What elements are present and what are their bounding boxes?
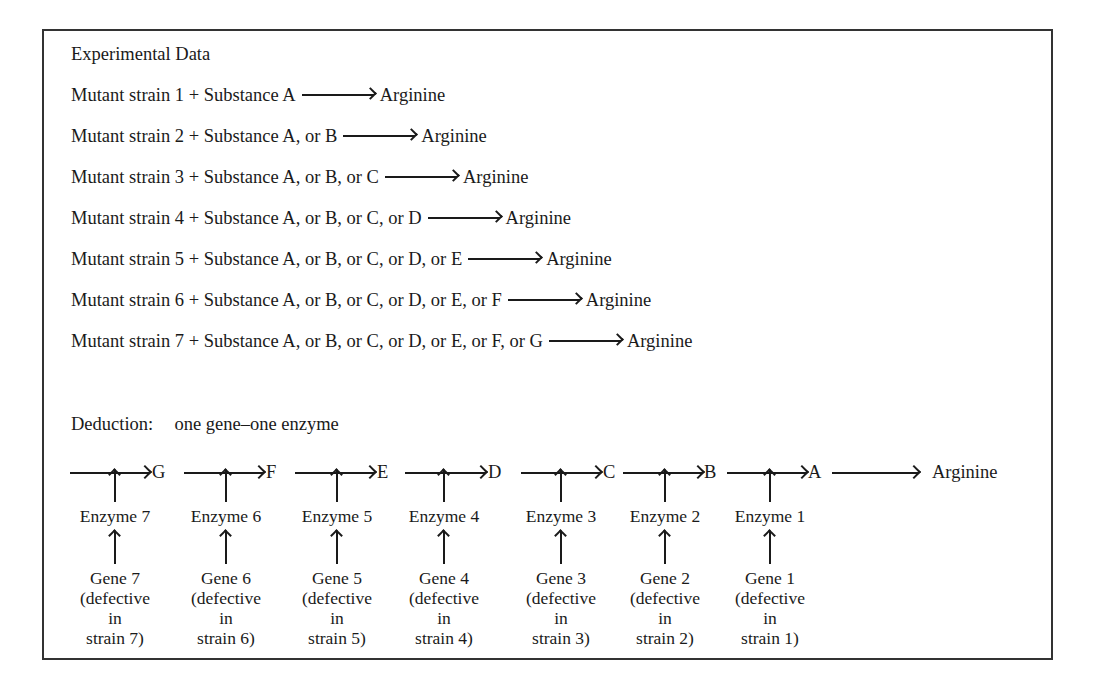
right-arrow-icon: [343, 135, 415, 137]
gene-name: Gene 5: [282, 568, 392, 588]
gene-note: in: [282, 608, 392, 628]
enzyme-4: Enzyme 4: [389, 506, 499, 526]
enzyme-6: Enzyme 6: [171, 506, 281, 526]
pathway-node-c: C: [603, 461, 615, 483]
gene-note: in: [610, 608, 720, 628]
gene-name: Gene 2: [610, 568, 720, 588]
up-arrow-icon: [664, 531, 666, 564]
row-result: Arginine: [546, 248, 611, 270]
up-arrow-icon: [769, 531, 771, 564]
row-result: Arginine: [586, 289, 651, 311]
gene-note: strain 2): [610, 628, 720, 648]
gene-note: (defective: [60, 588, 170, 608]
gene-3: Gene 3 (defective in strain 3): [506, 568, 616, 648]
up-arrow-icon: [336, 470, 338, 502]
gene-5: Gene 5 (defective in strain 5): [282, 568, 392, 648]
experiment-row-5: Mutant strain 5 + Substance A, or B, or …: [71, 248, 612, 270]
row-condition: Mutant strain 4 + Substance A, or B, or …: [71, 207, 422, 229]
gene-note: in: [506, 608, 616, 628]
enzyme-1: Enzyme 1: [715, 506, 825, 526]
gene-note: (defective: [610, 588, 720, 608]
up-arrow-icon: [225, 531, 227, 564]
pathway-node-d: D: [488, 461, 501, 483]
gene-name: Gene 7: [60, 568, 170, 588]
gene-4: Gene 4 (defective in strain 4): [389, 568, 499, 648]
up-arrow-icon: [114, 531, 116, 564]
deduction-principle: one gene–one enzyme: [174, 414, 338, 434]
gene-name: Gene 4: [389, 568, 499, 588]
gene-note: strain 3): [506, 628, 616, 648]
right-arrow-icon: [468, 258, 540, 260]
row-condition: Mutant strain 3 + Substance A, or B, or …: [71, 166, 379, 188]
gene-note: strain 7): [60, 628, 170, 648]
pathway-arrow-icon: [832, 472, 918, 474]
gene-note: (defective: [506, 588, 616, 608]
gene-note: (defective: [282, 588, 392, 608]
row-result: Arginine: [421, 125, 486, 147]
up-arrow-icon: [114, 470, 116, 502]
row-result: Arginine: [627, 330, 692, 352]
gene-2: Gene 2 (defective in strain 2): [610, 568, 720, 648]
deduction-label: Deduction:: [71, 414, 153, 434]
gene-name: Gene 1: [715, 568, 825, 588]
row-condition: Mutant strain 2 + Substance A, or B: [71, 125, 337, 147]
up-arrow-icon: [443, 470, 445, 502]
row-condition: Mutant strain 7 + Substance A, or B, or …: [71, 330, 543, 352]
up-arrow-icon: [560, 470, 562, 502]
up-arrow-icon: [560, 531, 562, 564]
enzyme-7: Enzyme 7: [60, 506, 170, 526]
gene-1: Gene 1 (defective in strain 1): [715, 568, 825, 648]
gene-name: Gene 3: [506, 568, 616, 588]
pathway-node-a: A: [808, 461, 821, 483]
up-arrow-icon: [225, 470, 227, 502]
enzyme-2: Enzyme 2: [610, 506, 720, 526]
right-arrow-icon: [508, 299, 580, 301]
gene-note: (defective: [715, 588, 825, 608]
pathway-node-arginine: Arginine: [932, 461, 997, 483]
gene-note: strain 1): [715, 628, 825, 648]
up-arrow-icon: [769, 470, 771, 502]
gene-note: strain 5): [282, 628, 392, 648]
gene-name: Gene 6: [171, 568, 281, 588]
deduction-heading: Deduction: one gene–one enzyme: [71, 413, 339, 435]
right-arrow-icon: [549, 340, 621, 342]
up-arrow-icon: [664, 470, 666, 502]
experiment-row-6: Mutant strain 6 + Substance A, or B, or …: [71, 289, 651, 311]
gene-note: in: [60, 608, 170, 628]
pathway-node-e: E: [377, 461, 388, 483]
row-condition: Mutant strain 1 + Substance A: [71, 84, 296, 106]
gene-note: strain 6): [171, 628, 281, 648]
gene-6: Gene 6 (defective in strain 6): [171, 568, 281, 648]
row-result: Arginine: [463, 166, 528, 188]
row-condition: Mutant strain 6 + Substance A, or B, or …: [71, 289, 502, 311]
right-arrow-icon: [385, 176, 457, 178]
gene-note: in: [171, 608, 281, 628]
up-arrow-icon: [336, 531, 338, 564]
gene-note: (defective: [389, 588, 499, 608]
pathway-node-f: F: [266, 461, 276, 483]
experiment-row-4: Mutant strain 4 + Substance A, or B, or …: [71, 207, 571, 229]
row-condition: Mutant strain 5 + Substance A, or B, or …: [71, 248, 462, 270]
gene-note: in: [715, 608, 825, 628]
right-arrow-icon: [302, 94, 374, 96]
gene-7: Gene 7 (defective in strain 7): [60, 568, 170, 648]
gene-note: strain 4): [389, 628, 499, 648]
enzyme-3: Enzyme 3: [506, 506, 616, 526]
pathway-node-g: G: [152, 461, 165, 483]
up-arrow-icon: [443, 531, 445, 564]
experimental-heading: Experimental Data: [71, 43, 210, 65]
enzyme-5: Enzyme 5: [282, 506, 392, 526]
gene-note: (defective: [171, 588, 281, 608]
experiment-row-1: Mutant strain 1 + Substance A Arginine: [71, 84, 445, 106]
experiment-row-7: Mutant strain 7 + Substance A, or B, or …: [71, 330, 692, 352]
pathway-node-b: B: [704, 461, 716, 483]
gene-note: in: [389, 608, 499, 628]
experiment-row-3: Mutant strain 3 + Substance A, or B, or …: [71, 166, 528, 188]
right-arrow-icon: [428, 217, 500, 219]
row-result: Arginine: [380, 84, 445, 106]
row-result: Arginine: [506, 207, 571, 229]
experiment-row-2: Mutant strain 2 + Substance A, or B Argi…: [71, 125, 487, 147]
